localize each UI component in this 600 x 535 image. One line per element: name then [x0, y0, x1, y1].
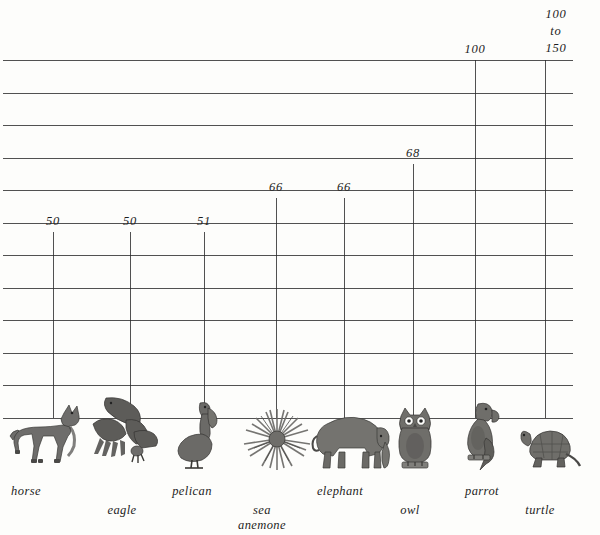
gridline-h-0 [3, 60, 573, 61]
chart-grid-area [3, 60, 573, 385]
horse-illustration [6, 400, 88, 472]
pelican-illustration [172, 398, 232, 472]
value-label-sea-anemone: 66 [269, 180, 283, 195]
elephant-illustration [305, 410, 391, 472]
caption-line1-parrot: parrot [465, 484, 499, 499]
value-label-elephant: 66 [337, 180, 351, 195]
bar-line-turtle[interactable] [545, 60, 546, 418]
owl-illustration [393, 406, 437, 472]
gridline-h-6 [3, 255, 573, 256]
caption-parrot: parrot [465, 484, 499, 499]
caption-line1-pelican: pelican [172, 484, 212, 499]
caption-line1-sea-anemone: sea [238, 503, 286, 518]
sea-anemone-illustration [240, 406, 314, 472]
caption-owl: owl [400, 503, 419, 518]
value-label-parrot: 100 [465, 42, 486, 57]
value-label-owl: 68 [406, 146, 420, 161]
caption-line1-eagle: eagle [107, 503, 136, 518]
caption-line2-sea-anemone: anemone [238, 518, 286, 533]
gridline-h-7 [3, 288, 573, 289]
gridline-h-9 [3, 353, 573, 354]
caption-line1-horse: horse [11, 484, 41, 499]
gridline-h-3 [3, 158, 573, 159]
caption-eagle: eagle [107, 503, 136, 518]
caption-sea-anemone: seaanemone [238, 503, 286, 533]
caption-horse: horse [11, 484, 41, 499]
gridline-h-4 [3, 190, 573, 191]
caption-line1-elephant: elephant [317, 484, 363, 499]
range-label-line1: 100 [526, 6, 586, 23]
range-label: 100 to 150 [526, 6, 586, 57]
bar-line-parrot[interactable] [475, 60, 476, 418]
bar-line-sea-anemone[interactable] [276, 198, 277, 418]
gridline-h-2 [3, 125, 573, 126]
value-label-horse: 50 [46, 214, 60, 229]
eagle-illustration [90, 394, 162, 472]
caption-line1-turtle: turtle [525, 503, 554, 518]
value-label-pelican: 51 [197, 214, 211, 229]
parrot-illustration [456, 398, 506, 472]
range-label-line2: to [526, 23, 586, 40]
turtle-illustration [516, 422, 582, 472]
gridline-h-5 [3, 223, 573, 224]
range-label-line3: 150 [526, 40, 586, 57]
bar-line-owl[interactable] [413, 164, 414, 418]
caption-line1-owl: owl [400, 503, 419, 518]
gridline-h-1 [3, 93, 573, 94]
caption-elephant: elephant [317, 484, 363, 499]
caption-pelican: pelican [172, 484, 212, 499]
bar-line-elephant[interactable] [344, 198, 345, 418]
animal-illustration-row [0, 386, 600, 472]
gridline-h-8 [3, 320, 573, 321]
value-label-eagle: 50 [123, 214, 137, 229]
caption-turtle: turtle [525, 503, 554, 518]
